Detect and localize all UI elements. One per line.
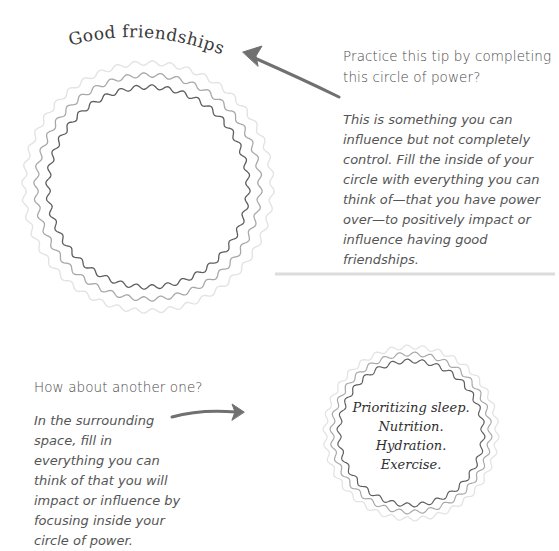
- ring-path: [46, 85, 250, 289]
- circle-title: Good friendships: [66, 21, 227, 58]
- circle-item: Exercise.: [341, 455, 481, 474]
- section2-instructions: In the surrounding space, fill in everyt…: [34, 411, 184, 551]
- circle-item: Prioritizing sleep.: [341, 398, 481, 417]
- arrow-left-icon: [243, 46, 339, 97]
- ring-path: [34, 73, 262, 301]
- circle-item: Nutrition.: [341, 417, 481, 436]
- section1-prompt: Practice this tip by completing this cir…: [343, 46, 559, 88]
- section2-prompt: How about another one?: [34, 377, 234, 398]
- section1-instructions: This is something you can influence but …: [343, 110, 559, 270]
- circle-items-list: Prioritizing sleep. Nutrition. Hydration…: [341, 398, 481, 474]
- ring-path: [22, 61, 274, 313]
- circle-of-power-large[interactable]: [22, 61, 274, 313]
- circle-item: Hydration.: [341, 436, 481, 455]
